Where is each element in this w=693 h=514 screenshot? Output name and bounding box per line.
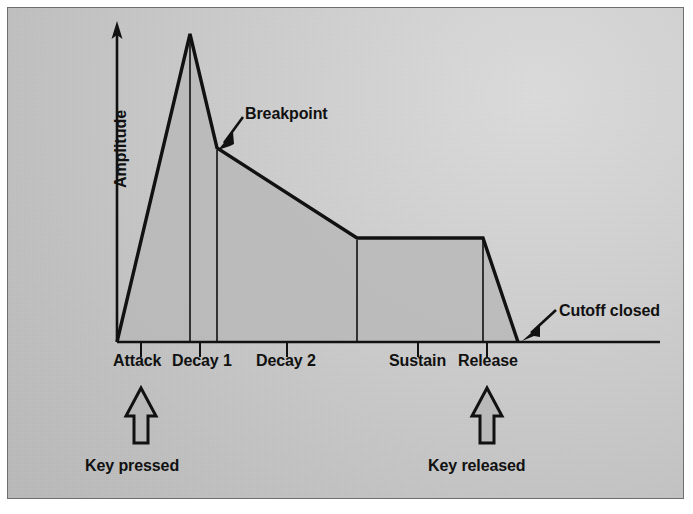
key-released-label: Key released: [428, 457, 526, 475]
key-pressed-arrow-icon: [126, 388, 156, 443]
key-released-arrow-icon: [472, 388, 502, 443]
envelope-fill: [117, 34, 518, 342]
y-axis-label: Amplitude: [112, 84, 130, 214]
x-tick-label-decay2: Decay 2: [256, 352, 316, 370]
breakpoint-arrow-icon: [218, 117, 243, 150]
cutoff-closed-annotation-label: Cutoff closed: [559, 302, 660, 320]
diagram-page: Amplitude Attack Decay 1 Decay 2 Sustain…: [0, 0, 693, 514]
x-tick-label-decay1: Decay 1: [172, 352, 232, 370]
cutoff-closed-arrow-icon: [522, 310, 556, 341]
x-tick-label-release: Release: [458, 352, 518, 370]
breakpoint-annotation-label: Breakpoint: [245, 105, 328, 123]
x-tick-label-attack: Attack: [113, 352, 161, 370]
x-tick-label-sustain: Sustain: [389, 352, 446, 370]
envelope-svg: [0, 0, 693, 514]
envelope-plot: Amplitude Attack Decay 1 Decay 2 Sustain…: [0, 0, 693, 514]
key-pressed-label: Key pressed: [85, 457, 179, 475]
